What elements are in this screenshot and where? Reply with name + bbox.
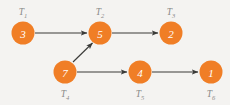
task-label-t2: T2 [96,7,105,18]
node-t6[interactable]: 1 [200,61,223,84]
task-dependency-diagram: 352741 T1T2T3T4T5T6 [0,0,230,105]
node-value-t2: 5 [97,28,103,40]
task-label-t6: T6 [207,89,216,100]
labels-group: T1T2T3T4T5T6 [19,7,216,100]
nodes-group: 352741 [12,22,223,84]
task-label-t3: T3 [167,7,176,18]
task-label-t4: T4 [61,89,70,100]
node-value-t3: 2 [168,28,174,40]
edge-t4-to-t2 [73,43,93,62]
node-t5[interactable]: 4 [129,61,152,84]
node-t1[interactable]: 3 [12,22,35,45]
task-label-t1: T1 [19,7,28,18]
task-label-t5: T5 [136,89,145,100]
node-value-t1: 3 [19,28,26,40]
node-value-t4: 7 [62,67,68,79]
graph-canvas: 352741 T1T2T3T4T5T6 [0,0,230,105]
node-value-t6: 1 [208,67,214,79]
node-t2[interactable]: 5 [89,22,112,45]
node-t3[interactable]: 2 [160,22,183,45]
node-t4[interactable]: 7 [54,61,77,84]
node-value-t5: 4 [137,67,143,79]
